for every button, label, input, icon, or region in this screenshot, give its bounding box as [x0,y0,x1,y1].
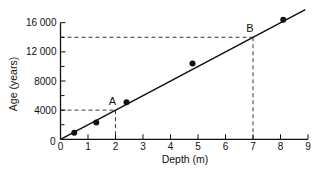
x-tick-label: 0 [58,141,64,152]
x-tick-label: 3 [140,141,146,152]
x-tick-label: 9 [305,141,311,152]
data-point [71,130,77,136]
x-tick-label: 6 [223,141,229,152]
data-point [93,120,99,126]
series [61,10,306,140]
annotation-label-b: B [246,22,253,34]
annotation-labels: AB [109,22,254,107]
x-tick-label: 1 [85,141,91,152]
y-axis-title: Age (years) [7,57,19,111]
x-tick-label: 7 [250,141,256,152]
x-axis-title: Depth (m) [162,153,209,165]
y-tick-label: 8000 [34,76,57,87]
y-tick-label: 4000 [34,105,57,116]
annotation-label-a: A [109,95,117,107]
x-tick-label: 5 [195,141,201,152]
data-point [124,99,130,105]
age-depth-chart: 012345678904000800012 00016 000 AB Depth… [0,0,317,177]
x-tick-label: 4 [168,141,174,152]
data-point [190,61,196,67]
x-tick-label: 2 [113,141,119,152]
y-tick-label: 12 000 [26,46,57,57]
y-tick-label: 16 000 [26,17,57,28]
y-tick-label: 0 [50,136,56,147]
x-tick-label: 8 [278,141,284,152]
data-point [280,17,286,23]
